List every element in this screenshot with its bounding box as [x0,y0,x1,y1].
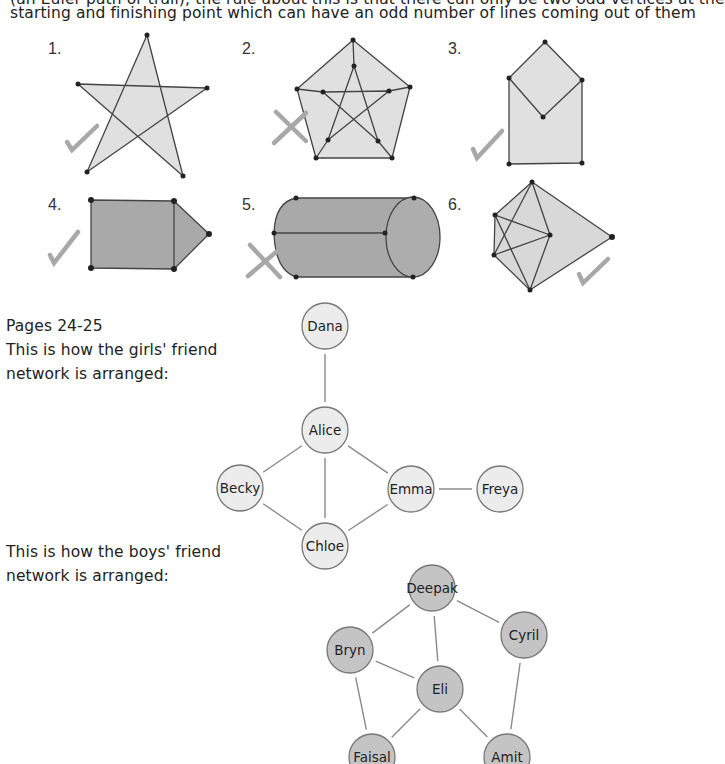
girls-node-freya: Freya [477,466,523,512]
girls-node-alice: Alice [302,407,348,453]
boys-node-faisal: Faisal [349,734,395,764]
boys-edge-cyril-amit [511,663,520,730]
girls-edge-alice-emma [348,446,388,473]
girls-node-emma: Emma [388,466,434,512]
boys-node-label: Deepak [406,580,458,596]
boys-edge-bryn-faisal [356,677,367,729]
girls-node-label: Freya [482,481,519,497]
girls-node-becky: Becky [217,465,263,511]
boys-node-label: Faisal [353,749,391,764]
boys-node-label: Bryn [334,642,365,658]
boys-node-eli: Eli [417,666,463,712]
boys-edge-eli-faisal [392,709,420,737]
girls-node-chloe: Chloe [302,523,348,569]
boys-node-deepak: Deepak [406,565,458,611]
boys-node-cyril: Cyril [501,612,547,658]
girls-node-label: Becky [220,480,260,496]
boys-edge-deepak-bryn [372,605,409,633]
boys-node-amit: Amit [484,734,530,764]
boys-edge-bryn-eli [376,661,415,678]
boys-edge-deepak-eli [434,616,438,661]
boys-node-bryn: Bryn [327,627,373,673]
girls-node-label: Alice [309,422,341,438]
girls-node-dana: Dana [302,303,348,349]
girls-edge-emma-chloe [348,504,387,530]
girls-node-label: Dana [307,318,343,334]
girls-network-nodes: DanaAliceBeckyEmmaFreyaChloe [217,303,523,569]
girls-edge-alice-becky [263,446,302,472]
boys-node-label: Cyril [509,627,539,643]
boys-node-label: Eli [432,681,448,697]
girls-node-label: Emma [389,481,432,497]
boys-node-label: Amit [491,749,522,764]
boys-edge-eli-amit [460,709,488,737]
boys-edge-deepak-cyril [457,601,499,623]
girls-node-label: Chloe [306,538,344,554]
girls-edge-becky-chloe [263,504,302,530]
girls-network-edges [263,354,472,531]
boys-network-nodes: DeepakCyrilBrynEliFaisalAmit [327,565,547,764]
